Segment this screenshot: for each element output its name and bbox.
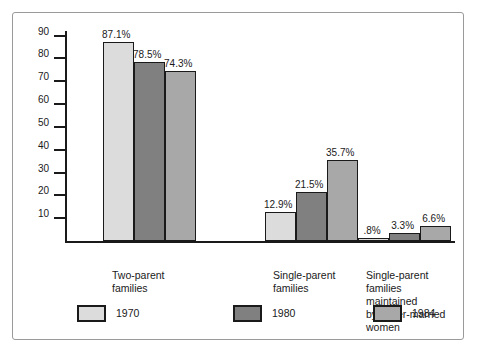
bar-value-label: 6.6% bbox=[422, 213, 445, 224]
plot-area: 908070605040302010 87.1%78.5%74.3%12.9%2… bbox=[65, 31, 455, 241]
y-axis-tick: 20 bbox=[54, 194, 65, 196]
y-axis-tick-label: 60 bbox=[38, 95, 49, 105]
y-axis-tick-label: 20 bbox=[38, 186, 49, 196]
y-axis-tick-label: 70 bbox=[38, 72, 49, 82]
legend-item[interactable]: 1980 bbox=[233, 305, 295, 322]
bar[interactable] bbox=[103, 42, 134, 241]
y-axis bbox=[65, 31, 67, 241]
y-axis-tick: 90 bbox=[54, 35, 65, 37]
y-axis-tick-label: 10 bbox=[38, 209, 49, 219]
bar-item[interactable]: 12.9% bbox=[265, 212, 296, 241]
bar-value-label: .8% bbox=[364, 225, 381, 236]
y-axis-tick: 60 bbox=[54, 103, 65, 105]
bar-item[interactable]: 6.6% bbox=[420, 226, 451, 241]
bar[interactable] bbox=[165, 71, 196, 241]
bar-item[interactable]: 87.1% bbox=[103, 42, 134, 241]
y-axis-tick: 70 bbox=[54, 80, 65, 82]
bar-item[interactable]: 74.3% bbox=[165, 71, 196, 241]
bar-value-label: 78.5% bbox=[133, 49, 161, 60]
bar-value-label: 21.5% bbox=[295, 179, 323, 190]
bar-value-label: 87.1% bbox=[102, 29, 130, 40]
legend-label: 1970 bbox=[116, 308, 139, 319]
legend-label: 1984 bbox=[412, 308, 435, 319]
x-axis-baseline bbox=[65, 241, 455, 243]
bar-item[interactable]: .8% bbox=[358, 238, 389, 241]
y-axis-tick: 30 bbox=[54, 172, 65, 174]
bar-value-label: 12.9% bbox=[264, 199, 292, 210]
y-axis-tick: 80 bbox=[54, 57, 65, 59]
bar-item[interactable]: 35.7% bbox=[327, 160, 358, 241]
y-axis-tick: 50 bbox=[54, 126, 65, 128]
bar[interactable] bbox=[134, 62, 165, 241]
y-axis-tick-label: 50 bbox=[38, 118, 49, 128]
bar-value-label: 74.3% bbox=[164, 58, 192, 69]
bar-value-label: 3.3% bbox=[391, 220, 414, 231]
legend-item[interactable]: 1984 bbox=[373, 305, 435, 322]
bar[interactable] bbox=[389, 233, 420, 241]
category-label: Two-parent families bbox=[112, 269, 165, 295]
legend-label: 1980 bbox=[272, 308, 295, 319]
bar[interactable] bbox=[420, 226, 451, 241]
bar[interactable] bbox=[327, 160, 358, 241]
y-axis-tick-label: 30 bbox=[38, 164, 49, 174]
category-label: Single-parent families bbox=[273, 269, 335, 295]
legend-item[interactable]: 1970 bbox=[77, 305, 139, 322]
chart-frame: 908070605040302010 87.1%78.5%74.3%12.9%2… bbox=[12, 12, 464, 340]
bar-item[interactable]: 21.5% bbox=[296, 192, 327, 241]
y-axis-tick: 40 bbox=[54, 149, 65, 151]
bar[interactable] bbox=[265, 212, 296, 241]
legend-swatch bbox=[373, 305, 402, 322]
bar-value-label: 35.7% bbox=[326, 147, 354, 158]
bar-item[interactable]: 78.5% bbox=[134, 62, 165, 241]
y-axis-tick-label: 80 bbox=[38, 49, 49, 59]
y-axis-tick-label: 40 bbox=[38, 141, 49, 151]
bar[interactable] bbox=[358, 238, 389, 241]
legend-swatch bbox=[77, 305, 106, 322]
chart-legend: 197019801984 bbox=[65, 305, 455, 331]
y-axis-tick: 10 bbox=[54, 217, 65, 219]
legend-swatch bbox=[233, 305, 262, 322]
y-axis-tick-label: 90 bbox=[38, 27, 49, 37]
bar[interactable] bbox=[296, 192, 327, 241]
bar-item[interactable]: 3.3% bbox=[389, 233, 420, 241]
